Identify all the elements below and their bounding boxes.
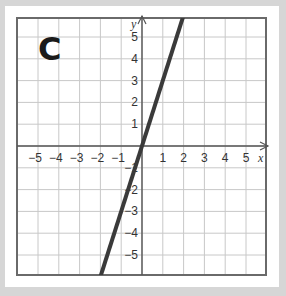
x-tick-label: 5 — [243, 151, 250, 165]
x-tick-label: −1 — [111, 151, 125, 165]
x-tick-label: 3 — [201, 151, 208, 165]
y-tick-label: 2 — [131, 95, 138, 109]
y-tick-label: 1 — [131, 117, 138, 131]
y-axis-label: y — [130, 17, 137, 31]
y-tick-label: 4 — [131, 52, 138, 66]
x-tick-label: 4 — [222, 151, 229, 165]
y-tick-label: −5 — [124, 248, 138, 262]
x-tick-label: −2 — [91, 151, 105, 165]
y-tick-label: −4 — [124, 226, 138, 240]
x-tick-label: −4 — [49, 151, 63, 165]
panel-label: C — [38, 30, 61, 68]
x-tick-label: −3 — [70, 151, 84, 165]
y-tick-label: −3 — [124, 204, 138, 218]
x-axis-label: x — [257, 151, 264, 165]
y-tick-label: 5 — [131, 30, 138, 44]
x-tick-label: 2 — [180, 151, 187, 165]
x-tick-label: −5 — [28, 151, 42, 165]
x-tick-label: 1 — [159, 151, 166, 165]
y-tick-label: 3 — [131, 74, 138, 88]
